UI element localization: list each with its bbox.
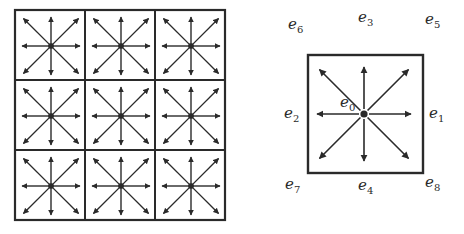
velocity-arrow (163, 118, 188, 143)
label-e1: e1 (429, 104, 444, 124)
lattice-node (317, 67, 411, 161)
velocity-arrow (123, 18, 148, 43)
lattice-node (22, 87, 80, 145)
label-e3: e3 (358, 8, 373, 28)
velocity-arrow (53, 158, 78, 183)
velocity-arrow (53, 18, 78, 43)
velocity-arrow (163, 88, 188, 113)
velocity-arrow (93, 158, 118, 183)
velocity-arrow (123, 48, 148, 73)
lattice-node (162, 157, 220, 215)
velocity-arrow (163, 18, 188, 43)
velocity-arrow (23, 48, 48, 73)
lattice-node (162, 17, 220, 75)
node-dot (48, 43, 54, 49)
lattice-node (92, 87, 150, 145)
lattice-node (22, 17, 80, 75)
velocity-arrow (93, 88, 118, 113)
label-e4: e4 (358, 176, 373, 196)
velocity-arrow (123, 158, 148, 183)
d2q9-diagram: e6 e3 e5 e2 e1 e0 e7 e4 e8 (0, 0, 464, 234)
lattice-node (92, 17, 150, 75)
label-e7: e7 (285, 175, 300, 195)
velocity-arrow (53, 118, 78, 143)
label-e5: e5 (425, 10, 440, 30)
velocity-arrow (93, 18, 118, 43)
velocity-arrow (53, 48, 78, 73)
label-e0: e0 (340, 93, 355, 113)
node-dot (360, 110, 367, 117)
velocity-arrow (53, 188, 78, 213)
velocity-arrow (163, 158, 188, 183)
node-dot (48, 113, 54, 119)
velocity-arrow (368, 69, 409, 110)
velocity-arrow (93, 118, 118, 143)
lattice-node (22, 157, 80, 215)
velocity-arrow (23, 118, 48, 143)
label-e2: e2 (284, 104, 299, 124)
velocity-arrow (193, 158, 218, 183)
node-dot (118, 113, 124, 119)
velocity-arrow (163, 48, 188, 73)
velocity-arrow (193, 18, 218, 43)
lattice-node (162, 87, 220, 145)
velocity-arrow (53, 88, 78, 113)
velocity-arrow (23, 188, 48, 213)
velocity-arrow (193, 188, 218, 213)
velocity-arrow (163, 188, 188, 213)
velocity-arrow (93, 48, 118, 73)
velocity-arrow (23, 88, 48, 113)
node-dot (188, 43, 194, 49)
velocity-arrow (319, 118, 360, 159)
velocity-arrow (193, 118, 218, 143)
node-dot (48, 183, 54, 189)
velocity-arrow (23, 18, 48, 43)
node-dot (118, 43, 124, 49)
velocity-arrow (123, 118, 148, 143)
detail-cell (308, 55, 423, 173)
velocity-arrow (368, 118, 409, 159)
velocity-arrow (23, 158, 48, 183)
velocity-arrow (93, 188, 118, 213)
velocity-arrow (123, 88, 148, 113)
lattice-node (92, 157, 150, 215)
velocity-arrow (193, 88, 218, 113)
label-e8: e8 (425, 173, 440, 193)
velocity-arrow (193, 48, 218, 73)
label-e6: e6 (288, 15, 303, 35)
node-dot (118, 183, 124, 189)
velocity-arrow (123, 188, 148, 213)
node-dot (188, 183, 194, 189)
node-dot (188, 113, 194, 119)
lattice-grid (15, 10, 225, 220)
